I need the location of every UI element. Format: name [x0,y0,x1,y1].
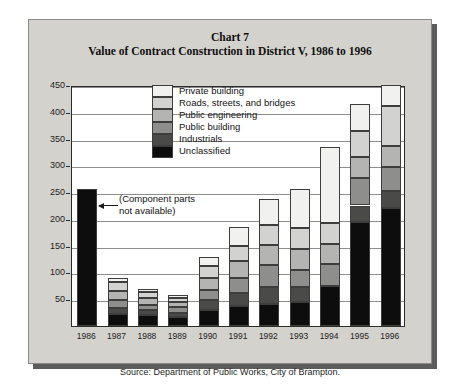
bar-segment [320,147,340,223]
bar-segment [320,223,340,244]
bar-segment [320,264,340,285]
legend-swatch [152,97,173,109]
chart-title-line2: Value of Contract Construction in Distri… [29,44,431,58]
bar-segment [290,270,310,287]
bar-segment [350,178,370,206]
bar-segment [229,278,249,293]
legend-swatch [152,109,173,121]
bar-segment [138,310,158,315]
x-axis-tick-label: 1986 [71,331,101,341]
bar-1992 [259,85,279,326]
bar-segment [350,222,370,326]
y-axis-tick-label: 100 [29,267,65,277]
legend-swatch [152,146,173,158]
bar-segment [229,261,249,278]
bar-segment [259,265,279,287]
bar-segment [350,104,370,131]
y-axis-tick-label: 200 [29,214,65,224]
legend-item: Private building [152,85,153,97]
bar-segment [138,289,158,292]
legend-item: Roads, streets, and bridges [152,97,153,109]
bar-segment [168,298,188,302]
legend-label: Roads, streets, and bridges [179,97,295,110]
bar-segment [381,85,401,106]
bar-segment [259,304,279,326]
bar-segment [381,191,401,208]
y-axis-tick-mark [66,273,70,274]
bar-segment [381,208,401,326]
source-note: Source: Department of Public Works, City… [29,367,431,377]
bar-segment [108,308,128,314]
bar-segment [229,306,249,326]
y-axis-tick-mark [66,113,70,114]
figure-caption: FIGURE 12-6 STACKED BAR CHART [2,0,169,6]
bar-segment [168,313,188,317]
x-axis-tick-label: 1996 [375,331,405,341]
legend-item: Public engineering [152,109,153,121]
bar-segment [259,287,279,303]
bar-segment [381,146,401,167]
bar-segment [138,298,158,304]
bar-segment [168,295,188,298]
y-axis-tick-mark [66,220,70,221]
bar-segment [290,249,310,269]
x-axis-tick-label: 1995 [344,331,374,341]
bar-segment [199,290,219,301]
chart-title-line1: Chart 7 [29,30,431,44]
bar-segment [290,228,310,249]
bar-segment [290,302,310,326]
x-axis-tick-label: 1991 [223,331,253,341]
legend-label: Unclassified [179,145,230,158]
bar-segment [290,189,310,228]
chart-legend: Private buildingRoads, streets, and brid… [152,85,153,158]
legend-swatch [152,122,173,134]
annotation-line2: not available) [119,205,195,217]
y-axis-tick-label: 350 [29,134,65,144]
bar-segment [350,206,370,222]
bar-segment [259,225,279,244]
bar-segment [381,106,401,146]
legend-label: Industrials [179,133,222,146]
bar-segment [290,287,310,302]
x-axis-tick-label: 1992 [253,331,283,341]
y-axis-tick-mark [66,86,70,87]
legend-item: Public building [152,122,153,134]
y-axis-tick-mark [66,140,70,141]
annotation-line1: (Component parts [119,193,195,205]
y-axis-tick-mark [66,166,70,167]
legend-swatch [152,134,173,146]
bar-1993 [290,85,310,326]
bar-segment [108,278,128,282]
bar-segment [168,317,188,326]
bar-segment [259,245,279,265]
bar-segment [138,292,158,298]
x-axis-tick-label: 1993 [284,331,314,341]
legend-label: Private building [179,85,244,98]
y-axis-tick-mark [66,247,70,248]
x-axis-tick-label: 1988 [132,331,162,341]
bar-segment [229,246,249,261]
legend-label: Public building [179,121,240,134]
bar-segment [229,293,249,306]
y-axis-tick-mark [66,300,70,301]
annotation-arrow-icon [99,205,118,206]
bar-segment [350,157,370,177]
y-axis-tick-label: 400 [29,107,65,117]
bar-segment [320,286,340,326]
bar-segment [199,300,219,310]
y-axis-tick-mark [66,193,70,194]
x-axis-tick-label: 1987 [101,331,131,341]
bar-segment [108,300,128,307]
y-axis-tick-label: 150 [29,241,65,251]
annotation-component-parts: (Component parts not available) [119,193,195,216]
bar-1986 [77,85,97,326]
y-axis-tick-label: 450 [29,80,65,90]
bar-segment [108,291,128,301]
bar-1994 [320,85,340,326]
bar-segment [320,244,340,264]
x-axis-tick-label: 1989 [162,331,192,341]
legend-item: Unclassified [152,146,153,158]
bar-segment [199,278,219,290]
chart-title: Chart 7 Value of Contract Construction i… [29,30,431,58]
bar-segment [138,315,158,326]
